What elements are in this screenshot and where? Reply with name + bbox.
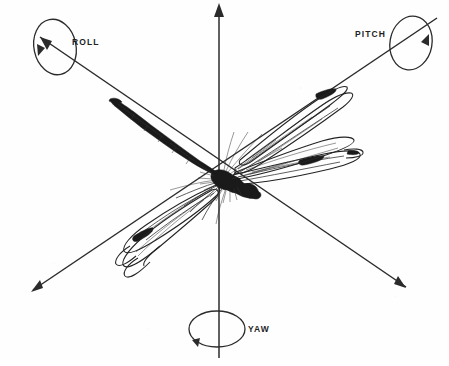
dragonfly-illustration (109, 86, 363, 277)
dragonfly-axes-figure: ROLL PITCH YAW (0, 0, 449, 366)
pitch-axis-arrowhead-lower-left (31, 280, 43, 292)
pitch-axis-line (33, 18, 437, 290)
dragonfly-hindwing-right (231, 151, 360, 184)
roll-axis-label: ROLL (72, 37, 100, 47)
pitch-axis: PITCH (31, 13, 437, 292)
dragonfly-abdomen (109, 98, 224, 178)
roll-axis-arrowhead-lower-right (394, 276, 406, 288)
pitch-axis-label: PITCH (355, 29, 386, 39)
yaw-axis-arrowhead-top (214, 3, 224, 17)
pitch-rotation-arrowhead (421, 34, 429, 46)
axes-diagram-canvas: ROLL PITCH YAW (0, 0, 449, 366)
yaw-axis-label: YAW (248, 324, 270, 334)
dragonfly-hindwing-lower-left (123, 189, 218, 267)
roll-rotation-arrowhead (37, 44, 45, 56)
